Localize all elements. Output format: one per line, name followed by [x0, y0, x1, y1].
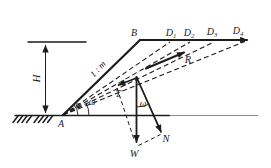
diagram-canvas: HABD1D2D3D41 : mαωRTωWN: [0, 0, 271, 168]
label-force-R: R: [184, 54, 192, 65]
label-force-N: N: [161, 133, 170, 144]
label-point-D4: D4: [232, 25, 244, 37]
label-angle-omega-toe: ω: [89, 97, 96, 107]
label-force-T: T: [115, 88, 122, 99]
label-height-H: H: [30, 73, 42, 83]
parallelogram-dash-W-to-N: [139, 135, 161, 146]
label-angle-omega-force: ω: [140, 99, 147, 109]
label-point-D1: D1: [165, 27, 177, 39]
slope-stability-figure: HABD1D2D3D41 : mαωRTωWN: [0, 0, 271, 168]
label-slope-ratio: 1 : m: [88, 58, 108, 79]
slip-surface-AD3: [63, 42, 214, 115]
label-point-A: A: [57, 118, 65, 129]
label-point-B: B: [131, 27, 137, 38]
label-point-D3: D3: [206, 26, 218, 38]
ground-hatching: [13, 116, 53, 123]
label-point-D2: D2: [183, 27, 195, 39]
label-force-W: W: [130, 148, 140, 159]
